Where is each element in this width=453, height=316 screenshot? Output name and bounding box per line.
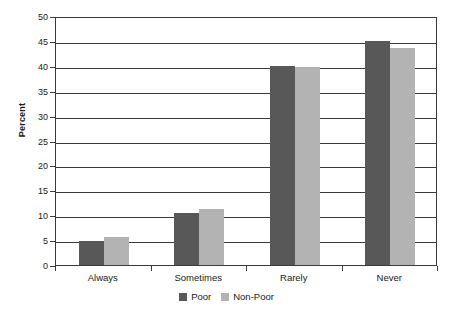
x-tick: [437, 266, 438, 271]
y-tick-label: 5: [0, 237, 48, 246]
y-tick-label: 0: [0, 262, 48, 271]
bar-non-poor-sometimes: [199, 209, 224, 265]
y-tick-label: 40: [0, 63, 48, 72]
x-category-label-always: Always: [55, 272, 151, 283]
y-tick-label: 20: [0, 162, 48, 171]
bar-chart: Percent 05101520253035404550 AlwaysSomet…: [0, 0, 453, 316]
x-tick: [55, 266, 56, 271]
x-category-label-never: Never: [342, 272, 438, 283]
legend-entry-non-poor[interactable]: Non-Poor: [221, 291, 274, 302]
bar-poor-always: [79, 241, 104, 265]
y-tick-label: 50: [0, 13, 48, 22]
y-tick-label: 45: [0, 38, 48, 47]
bar-poor-rarely: [270, 66, 295, 265]
bar-non-poor-always: [104, 237, 129, 265]
legend-label: Poor: [191, 291, 211, 302]
y-tick-label: 25: [0, 138, 48, 147]
chart-legend: PoorNon-Poor: [0, 291, 453, 302]
legend-label: Non-Poor: [233, 291, 274, 302]
x-category-label-sometimes: Sometimes: [151, 272, 247, 283]
x-category-label-rarely: Rarely: [246, 272, 342, 283]
bar-non-poor-rarely: [295, 67, 320, 265]
y-tick-label: 35: [0, 88, 48, 97]
x-tick: [342, 266, 343, 271]
plot-area: [55, 17, 437, 266]
bar-non-poor-never: [390, 48, 415, 265]
legend-swatch-icon: [179, 293, 187, 301]
bar-poor-sometimes: [174, 213, 199, 265]
y-tick-label: 10: [0, 212, 48, 221]
x-tick: [151, 266, 152, 271]
legend-swatch-icon: [221, 293, 229, 301]
x-tick: [246, 266, 247, 271]
y-tick-label: 30: [0, 113, 48, 122]
y-tick-label: 15: [0, 187, 48, 196]
legend-entry-poor[interactable]: Poor: [179, 291, 211, 302]
bar-poor-never: [365, 41, 390, 265]
